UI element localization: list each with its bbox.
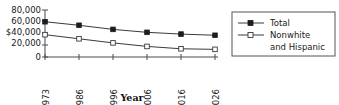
data-point-marker: [179, 32, 184, 37]
series-nonwhite-and-hispanic: [43, 32, 218, 51]
y-tick-label: 60,000: [11, 16, 41, 26]
y-axis-tick-labels: 80,000 60,000 $40,000 20,000 0: [6, 5, 41, 62]
series-total: [43, 19, 218, 37]
data-point-marker: [77, 36, 82, 41]
series-line: [45, 22, 215, 36]
data-point-marker: [145, 44, 150, 49]
x-axis-title: Year: [119, 92, 144, 103]
legend-label-nonwhite-line2: and Hispanic: [270, 42, 325, 52]
data-point-marker: [213, 33, 218, 38]
data-point-marker: [43, 19, 48, 24]
open-square-marker-icon: [248, 33, 253, 38]
data-point-marker: [43, 32, 48, 37]
data-point-marker: [111, 41, 116, 46]
x-tick-label: 2016: [177, 89, 187, 105]
y-tick-label: 0: [36, 52, 41, 62]
legend: Total Nonwhite and Hispanic: [232, 12, 335, 56]
series-layer: [43, 19, 218, 51]
legend-label-nonwhite: Nonwhite: [270, 30, 310, 40]
x-tick-label: 2026: [211, 89, 221, 105]
y-tick-label: 20,000: [11, 38, 41, 48]
data-point-marker: [145, 30, 150, 35]
filled-square-marker-icon: [248, 21, 253, 26]
data-point-marker: [213, 47, 218, 52]
x-tick-label: 1996: [109, 89, 119, 105]
x-tick-label: 1986: [75, 89, 85, 105]
data-point-marker: [111, 27, 116, 32]
x-tick-label: 2006: [143, 89, 153, 105]
x-tick-label: 1973: [41, 89, 51, 105]
data-point-marker: [179, 46, 184, 51]
data-point-marker: [77, 23, 82, 28]
line-chart: 80,000 60,000 $40,000 20,000 0: [0, 0, 339, 105]
legend-label-total: Total: [269, 18, 290, 28]
y-tick-label: $40,000: [6, 27, 41, 37]
y-tick-label: 80,000: [11, 5, 41, 15]
series-line: [45, 35, 215, 50]
